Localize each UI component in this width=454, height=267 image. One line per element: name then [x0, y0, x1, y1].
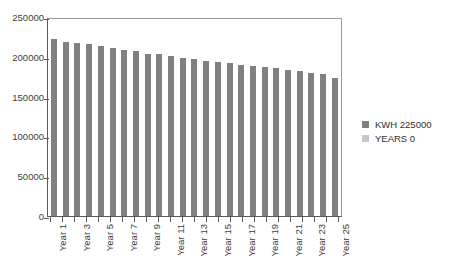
x-axis-label-slot: Year 3	[74, 224, 80, 267]
bar	[262, 67, 268, 216]
legend-swatch-icon	[362, 135, 369, 142]
x-axis-label-slot	[250, 224, 256, 267]
x-axis-tickmark	[170, 217, 171, 222]
bar	[63, 42, 69, 216]
bar	[180, 58, 186, 216]
bar	[145, 54, 151, 216]
y-axis-tick-label: 0	[0, 212, 44, 222]
x-axis-label-slot	[62, 224, 68, 267]
legend-swatch-icon	[362, 121, 369, 128]
x-axis-tickmark	[86, 217, 87, 222]
y-axis-tick-label: 250000	[0, 13, 44, 23]
legend-label: KWH 225000	[375, 120, 432, 130]
y-axis-tick-label: 150000	[0, 93, 44, 103]
x-axis-tickmark	[242, 217, 243, 222]
bar	[156, 54, 162, 216]
x-axis-label-slot: Year 17	[239, 224, 245, 267]
bar	[320, 74, 326, 216]
x-axis-label-slot: Year 15	[215, 224, 221, 267]
bar	[86, 44, 92, 216]
x-axis-tickmark	[314, 217, 315, 222]
x-axis-tickmark	[338, 217, 339, 222]
y-axis-tickmark	[44, 59, 49, 60]
legend-label: YEARS 0	[375, 134, 415, 144]
bar	[215, 62, 221, 216]
bar	[273, 68, 279, 216]
bar-chart: 250000200000150000100000500000 Year 1Yea…	[0, 0, 454, 267]
y-axis-tickmark	[44, 138, 49, 139]
y-axis-tickmark	[44, 99, 49, 100]
x-axis-tickmark	[110, 217, 111, 222]
x-axis-tickmark	[134, 217, 135, 222]
x-axis-tickmark	[50, 217, 51, 222]
x-axis-tickmarks	[47, 217, 342, 222]
bar	[250, 66, 256, 216]
bar	[191, 59, 197, 216]
legend-item: KWH 225000	[362, 120, 432, 130]
x-axis-tickmark	[62, 217, 63, 222]
bar	[51, 39, 57, 216]
bar	[308, 73, 314, 216]
x-axis-label-slot	[132, 224, 138, 267]
x-axis-label-slot	[227, 224, 233, 267]
x-axis-tickmark	[230, 217, 231, 222]
bar-series-kwh	[48, 19, 341, 216]
x-axis-tickmark	[290, 217, 291, 222]
y-axis-tick-label: 100000	[0, 133, 44, 143]
bar	[297, 71, 303, 216]
y-axis-tick-label: 50000	[0, 172, 44, 182]
x-axis-tickmark	[122, 217, 123, 222]
x-axis-labels: Year 1Year 3Year 5Year 7Year 9Year 11Yea…	[47, 224, 342, 267]
plot-area	[47, 18, 342, 217]
y-axis: 250000200000150000100000500000	[0, 0, 44, 267]
x-axis-label-slot: Year 11	[168, 224, 174, 267]
chart-legend: KWH 225000YEARS 0	[362, 120, 432, 143]
bar	[203, 61, 209, 216]
x-axis-label-slot	[85, 224, 91, 267]
x-axis-label-slot	[274, 224, 280, 267]
bar	[332, 78, 338, 217]
x-axis-tickmark	[146, 217, 147, 222]
x-axis-tickmark	[266, 217, 267, 222]
y-axis-tickmark	[44, 19, 49, 20]
bar	[121, 50, 127, 216]
x-axis-label-slot	[297, 224, 303, 267]
x-axis-tickmark	[302, 217, 303, 222]
x-axis-tickmark	[158, 217, 159, 222]
x-axis-label-slot: Year 1	[50, 224, 56, 267]
x-axis-tickmark	[206, 217, 207, 222]
x-axis-label-slot	[203, 224, 209, 267]
bar	[285, 70, 291, 216]
bar	[98, 46, 104, 216]
bar	[168, 56, 174, 216]
x-axis-label-slot	[180, 224, 186, 267]
x-axis-tickmark	[74, 217, 75, 222]
x-axis-label-slot: Year 5	[97, 224, 103, 267]
x-axis-label-slot	[109, 224, 115, 267]
x-axis-label-slot	[156, 224, 162, 267]
x-axis-tickmark	[194, 217, 195, 222]
x-axis-label-slot: Year 7	[121, 224, 127, 267]
bar	[74, 43, 80, 216]
y-axis-tickmark	[44, 178, 49, 179]
x-axis-label-slot: Year 13	[191, 224, 197, 267]
x-axis-tickmark	[278, 217, 279, 222]
x-axis-tick-label: Year 25	[341, 224, 351, 256]
bar	[133, 51, 139, 216]
x-axis-label-slot: Year 25	[333, 224, 339, 267]
x-axis-label-slot	[321, 224, 327, 267]
x-axis-tickmark	[254, 217, 255, 222]
x-axis-tickmark	[98, 217, 99, 222]
bar	[110, 48, 116, 216]
x-axis-tickmark	[182, 217, 183, 222]
x-axis-label-slot: Year 21	[286, 224, 292, 267]
bar	[227, 63, 233, 216]
x-axis-tickmark	[326, 217, 327, 222]
x-axis-label-slot: Year 9	[144, 224, 150, 267]
x-axis-tickmark	[218, 217, 219, 222]
legend-item: YEARS 0	[362, 134, 432, 144]
x-axis-label-slot: Year 19	[262, 224, 268, 267]
x-axis-label-slot: Year 23	[309, 224, 315, 267]
y-axis-tick-label: 200000	[0, 53, 44, 63]
bar	[238, 65, 244, 216]
